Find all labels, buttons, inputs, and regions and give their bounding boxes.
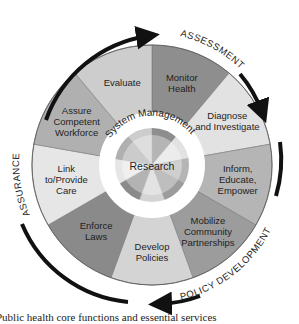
segment-label: DevelopPolicies bbox=[135, 241, 170, 263]
assurance-label: ASSURANCE bbox=[10, 152, 32, 218]
research-label: Research bbox=[130, 160, 175, 172]
segment-label-line: Health bbox=[168, 83, 195, 94]
segment-label-line: Inform, bbox=[223, 163, 253, 174]
segment-label-line: Mobilize bbox=[190, 215, 225, 226]
figure-caption: Public health core functions and essenti… bbox=[0, 311, 217, 323]
segment-label: MonitorHealth bbox=[166, 72, 198, 94]
segment-label-line: Assure bbox=[62, 105, 92, 116]
segment-label-line: Community bbox=[184, 226, 232, 237]
segment-label-line: Laws bbox=[85, 231, 107, 242]
segment-label-line: Competent bbox=[53, 116, 100, 127]
segment-label-line: and Investigate bbox=[195, 121, 259, 132]
segment-label-line: Partnerships bbox=[181, 237, 235, 248]
segment-label-line: Enforce bbox=[80, 220, 113, 231]
segment-label: Inform,Educate,Empower bbox=[218, 163, 258, 196]
segment-label-line: Workforce bbox=[55, 127, 98, 138]
segment-label-line: Educate, bbox=[219, 174, 257, 185]
segment-label-line: Evaluate bbox=[104, 77, 141, 88]
essential-services-wheel: MonitorHealthDiagnoseand InvestigateInfo… bbox=[0, 0, 299, 324]
segment-label-line: Diagnose bbox=[207, 110, 247, 121]
segment-label-line: Develop bbox=[135, 241, 170, 252]
segment-label-line: Link bbox=[58, 163, 76, 174]
segment-label-line: Care bbox=[56, 185, 77, 196]
segment-label-line: Policies bbox=[136, 252, 169, 263]
segment-label: Evaluate bbox=[104, 77, 141, 88]
policy-arrow bbox=[276, 142, 281, 196]
segment-label-line: Monitor bbox=[166, 72, 198, 83]
segment-label-line: to/Provide bbox=[45, 174, 88, 185]
segment-label-line: Empower bbox=[218, 185, 258, 196]
